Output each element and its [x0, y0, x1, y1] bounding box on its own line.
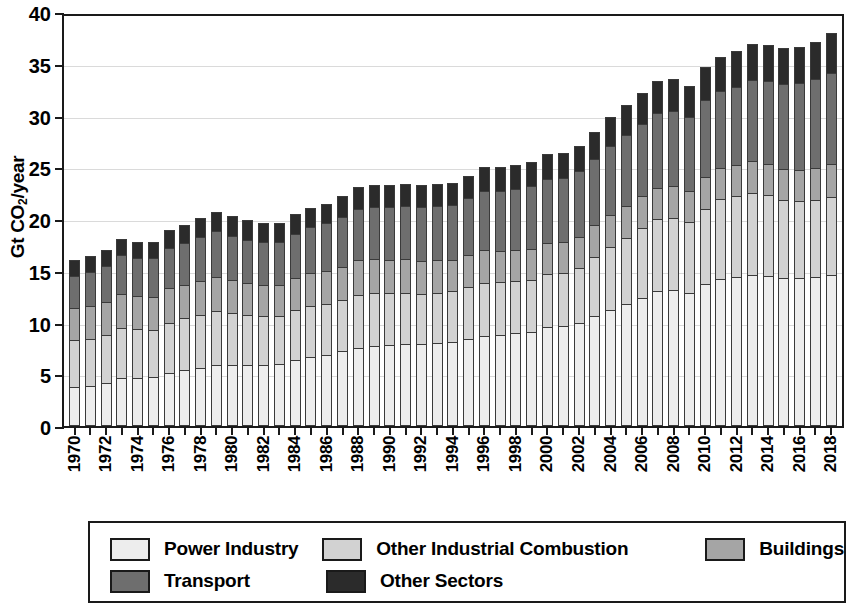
bar-segment-2017-other-sectors [810, 42, 821, 79]
bar-segment-1995-other-industrial-combustion [463, 287, 474, 339]
x-tick-1976 [168, 426, 170, 435]
bar-segment-2017-buildings [810, 168, 821, 200]
bar-segment-1983-power-industry [274, 364, 285, 426]
bar-segment-1970-other-sectors [69, 260, 80, 276]
bar-2000 [542, 154, 553, 426]
bar-segment-1977-other-sectors [179, 225, 190, 243]
bar-segment-1989-transport [369, 207, 380, 260]
bar-segment-2014-transport [763, 81, 774, 164]
bar-segment-1990-transport [384, 207, 395, 261]
bar-segment-2009-other-industrial-combustion [684, 222, 695, 292]
bar-segment-1984-transport [290, 234, 301, 279]
bar-segment-2000-power-industry [542, 327, 553, 426]
bar-segment-2013-other-sectors [747, 44, 758, 80]
x-tick-label-2008: 2008 [664, 436, 684, 472]
legend-label-other-sectors: Other Sectors [380, 570, 503, 592]
y-tick-20 [55, 220, 64, 222]
bar-segment-1974-power-industry [132, 378, 143, 426]
x-tick-1991 [405, 426, 407, 435]
legend-swatch-other-sectors [326, 570, 366, 593]
bar-segment-2005-power-industry [621, 304, 632, 426]
x-axis-ticks [66, 426, 840, 435]
bar-2003 [589, 132, 600, 426]
bar-segment-2013-other-industrial-combustion [747, 193, 758, 275]
x-tick-label-2000: 2000 [537, 436, 557, 472]
x-tick-label-1984: 1984 [285, 436, 305, 472]
bar-segment-2006-transport [637, 124, 648, 196]
bar-segment-1992-other-industrial-combustion [416, 294, 427, 345]
x-tick-2009 [688, 426, 690, 435]
x-tick-1978 [200, 426, 202, 435]
x-tick-wrap-1997 [495, 426, 506, 435]
bar-segment-1970-transport [69, 276, 80, 308]
x-label-wrap-1978: 1978 [195, 436, 206, 510]
bar-segment-1984-other-sectors [290, 214, 301, 234]
x-label-wrap-1972: 1972 [101, 436, 112, 510]
bar-1970 [69, 260, 80, 426]
bar-segment-2002-transport [574, 171, 585, 236]
bar-segment-1995-other-sectors [463, 176, 474, 199]
bar-segment-1984-power-industry [290, 360, 301, 426]
bar-segment-1977-power-industry [179, 370, 190, 426]
bar-segment-1980-other-industrial-combustion [227, 313, 238, 365]
bar-segment-2003-other-sectors [589, 132, 600, 159]
y-tick-label-5: 5 [40, 366, 51, 386]
x-tick-1977 [184, 426, 186, 435]
bar-segment-1986-other-sectors [321, 204, 332, 224]
bar-segment-2007-buildings [652, 188, 663, 219]
x-tick-2004 [610, 426, 612, 435]
bar-segment-1994-buildings [447, 260, 458, 291]
y-tick-label-0: 0 [40, 418, 51, 438]
x-tick-wrap-2017 [810, 426, 821, 435]
x-label-wrap-2013 [747, 436, 758, 510]
x-tick-wrap-2001 [558, 426, 569, 435]
bar-segment-1981-other-sectors [242, 220, 253, 240]
bar-segment-1991-transport [400, 206, 411, 260]
bar-2010 [700, 67, 711, 426]
bar-1973 [116, 239, 127, 426]
x-label-wrap-2010: 2010 [700, 436, 711, 510]
bar-segment-1990-other-sectors [384, 185, 395, 207]
bar-segment-2008-buildings [668, 186, 679, 218]
bar-segment-1994-transport [447, 205, 458, 261]
bar-1982 [258, 223, 269, 426]
x-tick-1985 [310, 426, 312, 435]
bar-segment-2011-transport [715, 91, 726, 169]
bar-segment-1998-buildings [510, 250, 521, 281]
bar-segment-1973-other-industrial-combustion [116, 328, 127, 379]
x-tick-wrap-1975 [148, 426, 159, 435]
stacked-bar-chart: 0510152025303540 19701972197419761978198… [62, 14, 844, 428]
bar-1984 [290, 214, 301, 426]
bar-segment-2005-other-industrial-combustion [621, 238, 632, 304]
bar-1999 [526, 162, 537, 426]
bar-segment-2014-power-industry [763, 276, 774, 426]
bar-segment-2010-power-industry [700, 284, 711, 426]
bar-2001 [558, 153, 569, 426]
x-label-wrap-1973 [116, 436, 127, 510]
bar-segment-2000-other-industrial-combustion [542, 274, 553, 327]
x-tick-wrap-1990 [384, 426, 395, 435]
bar-segment-1974-other-sectors [132, 242, 143, 259]
bar-segment-1977-transport [179, 243, 190, 285]
x-tick-2013 [751, 426, 753, 435]
bar-segment-1989-other-industrial-combustion [369, 293, 380, 347]
bar-segment-2015-power-industry [778, 278, 789, 426]
x-tick-1984 [294, 426, 296, 435]
bar-segment-1975-transport [148, 258, 159, 296]
bar-segment-1979-other-industrial-combustion [211, 311, 222, 365]
x-tick-label-2018: 2018 [821, 436, 841, 472]
x-tick-label-1974: 1974 [128, 436, 148, 472]
bar-segment-2015-other-industrial-combustion [778, 200, 789, 278]
x-tick-label-1992: 1992 [411, 436, 431, 472]
x-tick-1988 [357, 426, 359, 435]
bar-segment-1994-other-sectors [447, 183, 458, 205]
x-label-wrap-2015 [778, 436, 789, 510]
bar-segment-1985-other-sectors [305, 208, 316, 228]
y-tick-label-35: 35 [29, 56, 51, 76]
x-tick-label-2014: 2014 [758, 436, 778, 472]
bar-segment-1991-power-industry [400, 344, 411, 426]
bar-segment-2009-transport [684, 117, 695, 192]
x-label-wrap-2018: 2018 [826, 436, 837, 510]
y-tick-0 [55, 427, 64, 429]
y-tick-5 [55, 375, 64, 377]
